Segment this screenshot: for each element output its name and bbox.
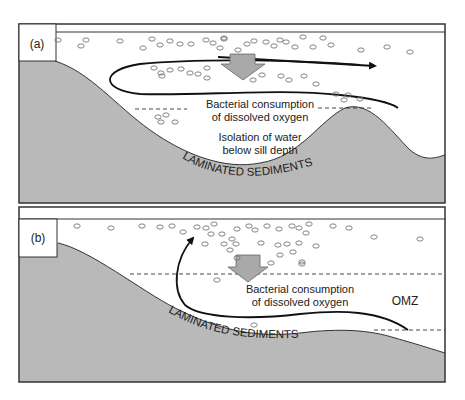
panel-a-consumption-text-2: of dissolved oxygen [212, 111, 309, 123]
panel-a-consumption-text-1: Bacterial consumption [206, 98, 314, 110]
panel-b-label: (b) [31, 231, 46, 245]
panel-a-label: (a) [30, 37, 45, 51]
panel-a-isolation-text-2: below sill depth [222, 144, 297, 156]
panel-b-omz-label: OMZ [392, 294, 419, 308]
panel-b-consumption-text-2: of dissolved oxygen [252, 296, 349, 308]
panel-b-consumption-text-1: Bacterial consumption [246, 283, 354, 295]
panel-b-sediment [19, 243, 445, 382]
panel-a-isolation-text-1: Isolation of water [218, 131, 301, 143]
panel-b: (b) Bacterial consumption of dissolved o… [19, 207, 445, 382]
panel-a: (a) Bacterial consumption of dissolved o… [19, 24, 445, 203]
diagram-canvas: (a) Bacterial consumption of dissolved o… [0, 0, 465, 400]
